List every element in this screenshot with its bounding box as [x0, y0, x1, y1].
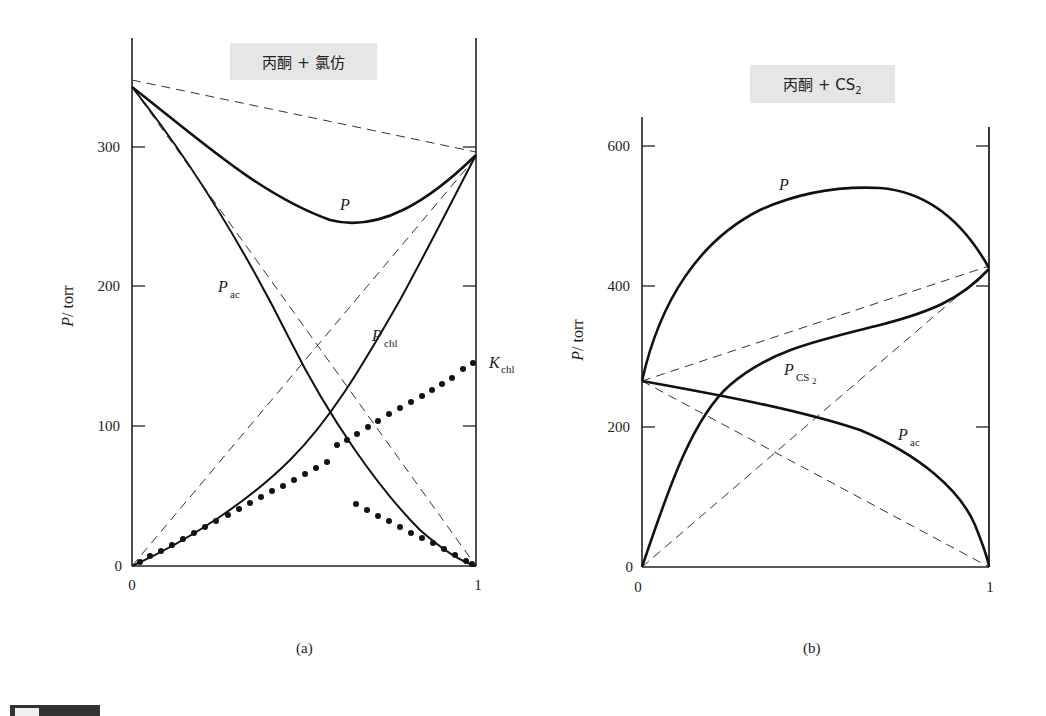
- svg-text:2: 2: [812, 376, 817, 386]
- chart-a-label-P: P: [339, 196, 350, 213]
- chart-a-ticks: [132, 147, 476, 426]
- chart-b-ytick-labels: 600 400 200 0: [608, 138, 634, 575]
- svg-text:CS: CS: [796, 371, 809, 383]
- svg-text:1: 1: [986, 579, 994, 595]
- svg-text:400: 400: [608, 278, 631, 294]
- svg-text:0: 0: [634, 579, 642, 595]
- chart-b-caption: (b): [803, 640, 821, 657]
- chart-b-xtick-labels: 0 1: [634, 579, 994, 595]
- chart-b-label-Pac: P ac: [897, 426, 920, 448]
- chart-b-curve-P: [642, 188, 989, 381]
- svg-text:600: 600: [608, 138, 631, 154]
- chart-b-label-Pcs2: P CS 2: [783, 361, 817, 386]
- chart-a-dots-Kac: [353, 501, 475, 567]
- svg-text:0: 0: [128, 577, 136, 593]
- footer-bar: [10, 705, 100, 716]
- chart-a-ylabel: P/ torr: [59, 285, 76, 328]
- chart-a-label-Pchl: P chl: [371, 327, 397, 349]
- svg-text:ac: ac: [230, 288, 240, 300]
- chart-a: 300 200 100 0 0 1 P/ torr P P ac P chl K…: [59, 38, 514, 593]
- svg-text:ac: ac: [910, 436, 920, 448]
- chart-b-label-P: P: [778, 176, 789, 193]
- svg-text:0: 0: [626, 559, 634, 575]
- svg-text:100: 100: [98, 418, 121, 434]
- chart-b: 600 400 200 0 0 1 P/ torr P P CS 2 P ac: [569, 117, 994, 595]
- svg-text:K: K: [488, 354, 501, 371]
- chart-a-label-Pac: P ac: [217, 278, 240, 300]
- svg-text:chl: chl: [501, 363, 514, 375]
- svg-text:P: P: [217, 278, 228, 295]
- svg-text:P: P: [371, 327, 382, 344]
- chart-canvas: 300 200 100 0 0 1 P/ torr P P ac P chl K…: [0, 0, 1046, 716]
- chart-a-ideal-lines: [132, 80, 476, 566]
- chart-a-label-Kchl: K chl: [488, 354, 514, 375]
- svg-text:0: 0: [115, 558, 123, 574]
- svg-text:200: 200: [608, 419, 631, 435]
- svg-text:P: P: [783, 361, 794, 378]
- chart-a-curve-P: [132, 87, 476, 223]
- svg-text:200: 200: [98, 278, 121, 294]
- chart-a-caption: (a): [296, 640, 313, 657]
- svg-text:P: P: [897, 426, 908, 443]
- chart-a-ytick-labels: 300 200 100 0: [98, 139, 123, 574]
- svg-text:chl: chl: [384, 337, 397, 349]
- chart-b-ylabel: P/ torr: [569, 319, 586, 362]
- svg-text:1: 1: [474, 577, 482, 593]
- chart-a-xtick-labels: 0 1: [128, 577, 482, 593]
- svg-text:300: 300: [98, 139, 121, 155]
